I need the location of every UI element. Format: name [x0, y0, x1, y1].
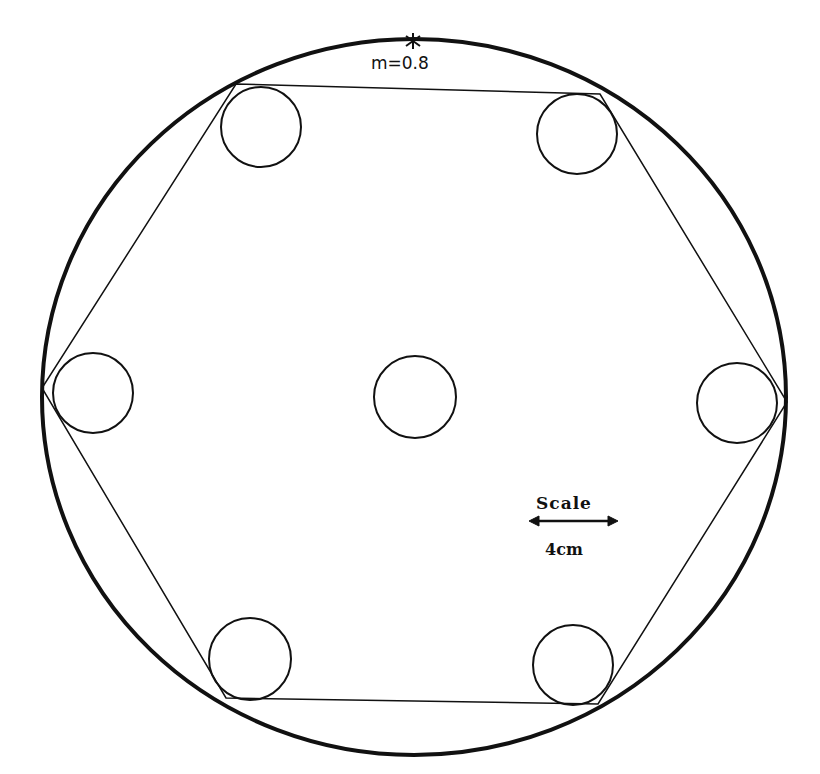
scale-title: Scale [536, 493, 592, 513]
circle-center [374, 356, 456, 438]
circle-top-right [537, 94, 617, 174]
scale-value: 4cm [545, 540, 583, 559]
circle-bottom-left [209, 618, 291, 700]
circle-bottom-right [533, 625, 613, 705]
double-arrow-icon [529, 516, 618, 526]
circle-top-left [221, 87, 301, 167]
small-circles [53, 87, 777, 705]
hexagon-circle-diagram [0, 0, 820, 774]
circle-right [697, 363, 777, 443]
marker-label: m=0.8 [371, 53, 429, 73]
hexagon [42, 84, 787, 704]
circle-left [53, 353, 133, 433]
outer-circle [42, 39, 786, 755]
